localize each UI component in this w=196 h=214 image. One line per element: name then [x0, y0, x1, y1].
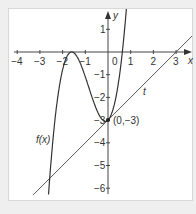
- x-tick-label: 3: [173, 56, 179, 67]
- point-label: (0,−3): [113, 115, 139, 126]
- x-tick-label: −3: [34, 56, 46, 67]
- y-tick-label: 1: [100, 24, 106, 35]
- x-tick-label: 1: [128, 56, 134, 67]
- y-axis-label: y: [112, 10, 119, 21]
- x-tick-label: 2: [150, 56, 156, 67]
- curve-label: f(x): [36, 134, 50, 145]
- origin-label: 0: [112, 56, 118, 67]
- y-tick-label: −1: [94, 69, 106, 80]
- tangent-label: t: [143, 86, 147, 97]
- y-tick-label: −5: [94, 160, 106, 171]
- curve-f: [49, 0, 128, 195]
- y-axis-arrow-icon: [105, 11, 111, 19]
- y-tick-label: −6: [94, 183, 106, 194]
- y-tick-label: −4: [94, 137, 106, 148]
- x-axis-label: x: [187, 55, 194, 66]
- x-tick-label: −4: [11, 56, 23, 67]
- y-tick-label: −2: [94, 92, 106, 103]
- graph-plot: xy−4−3−2−112301−1−2−3−4−5−6(0,−3)f(x)t: [0, 0, 196, 214]
- tangent-point: [106, 118, 110, 122]
